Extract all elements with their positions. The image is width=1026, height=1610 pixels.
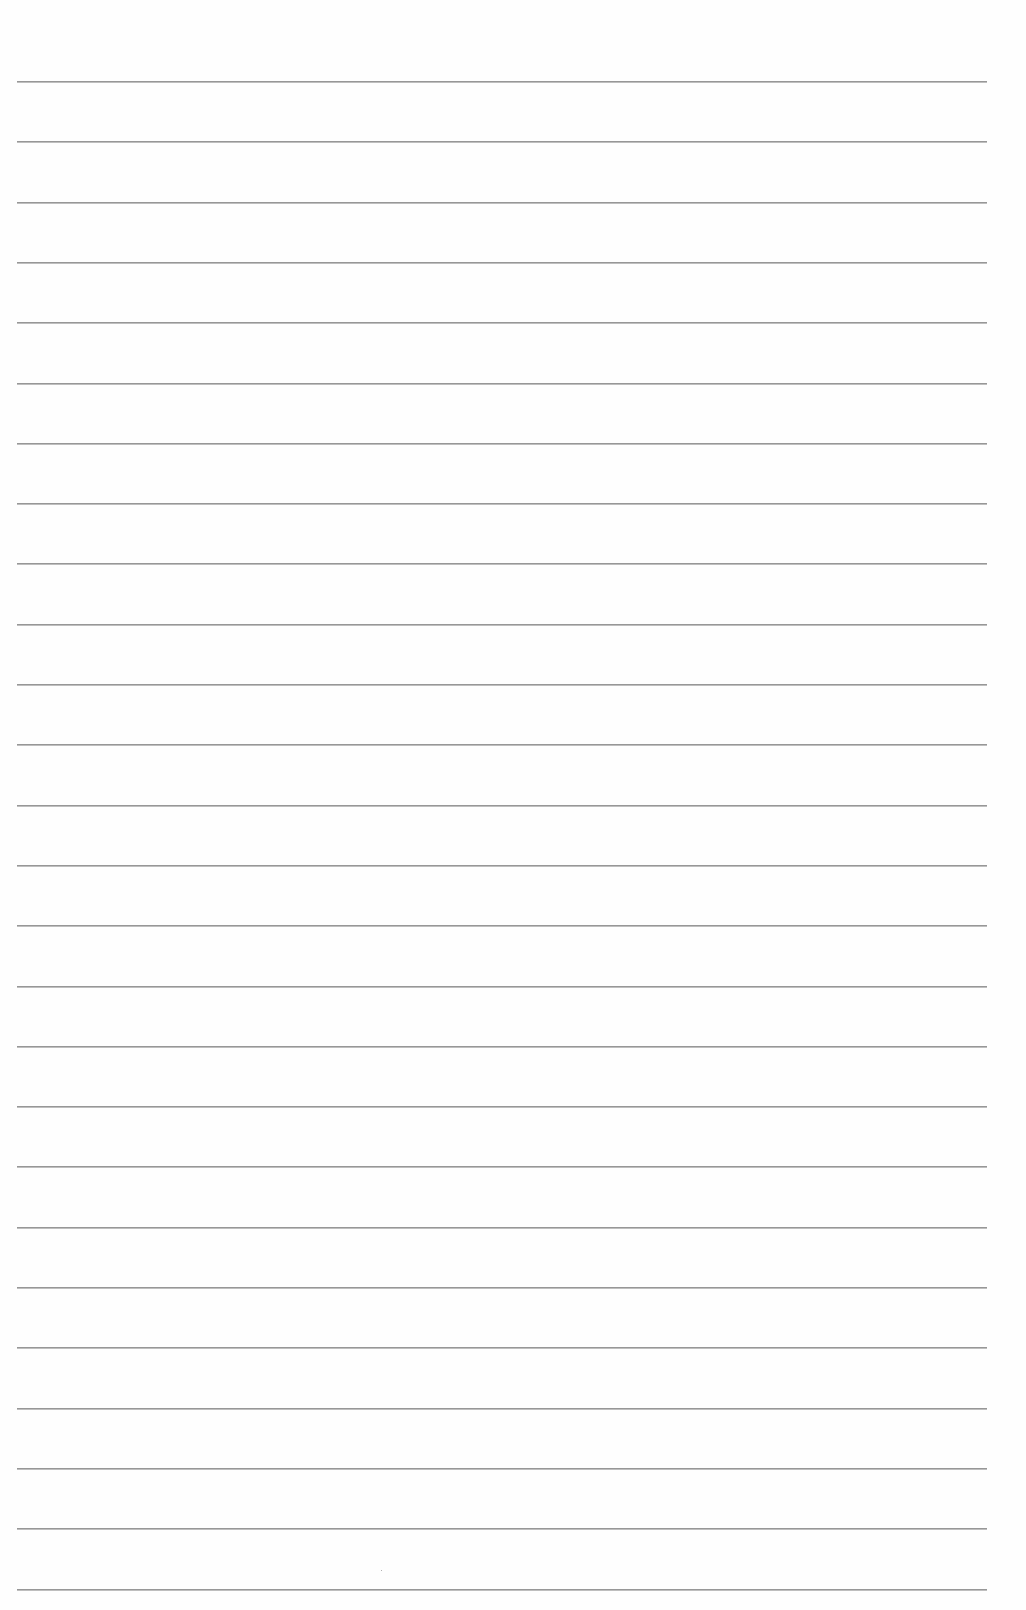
ruled-line	[17, 1347, 987, 1349]
ruled-line	[17, 1046, 987, 1048]
ruled-line	[17, 1589, 987, 1591]
ruled-line	[17, 443, 987, 445]
ruled-line	[17, 1468, 987, 1470]
ruled-line	[17, 986, 987, 988]
ruled-line	[17, 925, 987, 927]
ruled-line	[17, 262, 987, 264]
ruled-line	[17, 805, 987, 807]
ruled-line	[17, 1528, 987, 1530]
ruled-line	[17, 1106, 987, 1108]
ruled-line	[17, 624, 987, 626]
ruled-line	[17, 141, 987, 143]
ruled-line	[17, 1287, 987, 1289]
paper-speck	[381, 1570, 382, 1571]
ruled-line	[17, 383, 987, 385]
ruled-line	[17, 563, 987, 565]
ruled-line	[17, 744, 987, 746]
ruled-line	[17, 1227, 987, 1229]
ruled-line	[17, 202, 987, 204]
ruled-line	[17, 865, 987, 867]
lined-paper-page	[0, 0, 1026, 1610]
ruled-line	[17, 503, 987, 505]
ruled-line	[17, 1166, 987, 1168]
ruled-line	[17, 684, 987, 686]
ruled-line	[17, 1408, 987, 1410]
ruled-line	[17, 322, 987, 324]
ruled-line	[17, 81, 987, 83]
